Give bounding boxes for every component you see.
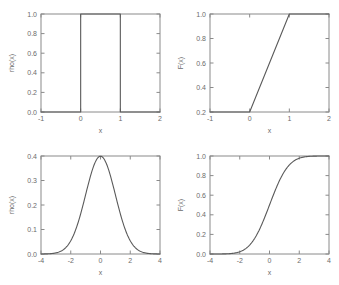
x-axis-label: x [99, 269, 103, 276]
y-tick-label: 0.2 [27, 202, 37, 209]
plot-normal-pdf: -4-20240.00.10.20.30.4xrho(x) [0, 142, 170, 285]
x-tick-label: -4 [38, 257, 44, 264]
data-curve [210, 156, 329, 254]
x-tick-label: -4 [207, 257, 213, 264]
y-tick-label: 0.2 [27, 89, 37, 96]
x-tick-label: 0 [268, 257, 272, 264]
x-tick-label: 1 [118, 115, 122, 122]
y-tick-label: 0.8 [196, 172, 206, 179]
y-tick-label: 0.4 [27, 69, 37, 76]
x-tick-label: 0 [79, 115, 83, 122]
y-tick-label: 0.6 [27, 50, 37, 57]
y-tick-label: 0.6 [196, 192, 206, 199]
data-curve [41, 156, 160, 254]
x-axis-label: x [268, 269, 272, 276]
y-axis-label: rho(x) [8, 196, 16, 214]
y-tick-label: 0.8 [196, 35, 206, 42]
plot-normal-cdf: -4-20240.00.20.40.60.81.0xF(x) [169, 142, 339, 285]
figure-canvas: -10120.00.20.40.60.81.0xrho(x) -10120.20… [0, 0, 339, 285]
panel-uniform-cdf: -10120.20.40.60.81.0xF(x) [169, 0, 339, 143]
y-tick-label: 0.2 [196, 109, 206, 116]
x-axis-label: x [268, 127, 272, 134]
y-tick-label: 0.4 [196, 84, 206, 91]
y-tick-label: 0.1 [27, 226, 37, 233]
x-tick-label: -2 [68, 257, 74, 264]
panel-normal-pdf: -4-20240.00.10.20.30.4xrho(x) [0, 142, 170, 285]
x-tick-label: 0 [99, 257, 103, 264]
x-tick-label: 2 [297, 257, 301, 264]
x-tick-label: 2 [128, 257, 132, 264]
plot-uniform-cdf: -10120.20.40.60.81.0xF(x) [169, 0, 339, 143]
y-axis-label: F(x) [177, 57, 185, 69]
y-tick-label: 0.0 [27, 109, 37, 116]
x-tick-label: 4 [327, 257, 331, 264]
x-tick-label: 0 [248, 115, 252, 122]
y-tick-label: 1.0 [27, 11, 37, 18]
y-tick-label: 0.4 [27, 153, 37, 160]
x-tick-label: 2 [158, 115, 162, 122]
data-curve [41, 14, 160, 112]
x-tick-label: -2 [237, 257, 243, 264]
y-tick-label: 1.0 [196, 153, 206, 160]
y-tick-label: 0.3 [27, 177, 37, 184]
y-tick-label: 0.8 [27, 30, 37, 37]
y-tick-label: 1.0 [196, 11, 206, 18]
x-tick-label: -1 [207, 115, 213, 122]
y-tick-label: 0.0 [196, 251, 206, 258]
data-curve [210, 14, 329, 112]
x-tick-label: 2 [327, 115, 331, 122]
x-axis-label: x [99, 127, 103, 134]
y-tick-label: 0.0 [27, 251, 37, 258]
x-tick-label: 1 [287, 115, 291, 122]
y-tick-label: 0.4 [196, 211, 206, 218]
y-axis-label: rho(x) [8, 54, 16, 72]
y-tick-label: 0.2 [196, 231, 206, 238]
y-tick-label: 0.6 [196, 60, 206, 67]
x-tick-label: -1 [38, 115, 44, 122]
panel-normal-cdf: -4-20240.00.20.40.60.81.0xF(x) [169, 142, 339, 285]
y-axis-label: F(x) [177, 199, 185, 211]
panel-uniform-pdf: -10120.00.20.40.60.81.0xrho(x) [0, 0, 170, 143]
x-tick-label: 4 [158, 257, 162, 264]
plot-uniform-pdf: -10120.00.20.40.60.81.0xrho(x) [0, 0, 170, 143]
